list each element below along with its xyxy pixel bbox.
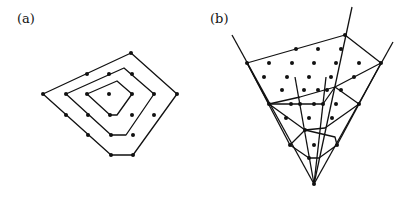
point-dot	[86, 133, 90, 137]
point-dot	[85, 72, 89, 76]
point-dot	[290, 61, 294, 65]
edge-line-0	[232, 35, 314, 184]
point-dot	[130, 72, 134, 76]
panel-b-cone-layers	[232, 7, 393, 186]
point-dot	[280, 88, 284, 92]
point-dot	[312, 61, 316, 65]
point-dot	[357, 61, 361, 65]
edge-line-9	[290, 130, 337, 145]
point-dot	[267, 61, 271, 65]
point-dot	[343, 33, 347, 37]
point-dot	[108, 113, 112, 117]
point-dot	[245, 61, 249, 65]
point-dot	[289, 102, 293, 106]
point-dot	[298, 102, 302, 106]
point-dot	[330, 116, 334, 120]
point-dot	[131, 153, 135, 157]
point-dot	[302, 88, 306, 92]
edge-line-5	[247, 35, 381, 63]
point-dot	[335, 143, 339, 147]
layer-polygon-2	[87, 81, 132, 115]
point-dot	[334, 61, 338, 65]
point-dot	[329, 75, 333, 79]
point-dot	[334, 102, 338, 106]
nested-polygon-diagrams	[0, 0, 412, 197]
point-dot	[85, 92, 89, 96]
layer-polygon-0	[43, 53, 177, 155]
point-dot	[129, 51, 133, 55]
point-dot	[109, 153, 113, 157]
panel-a-nested-convex-layers	[41, 51, 179, 157]
point-dot	[352, 75, 356, 79]
point-dot	[339, 88, 343, 92]
point-dot	[303, 128, 307, 132]
point-dot	[64, 92, 68, 96]
point-dot	[109, 133, 113, 137]
point-dot	[316, 47, 320, 51]
point-dot	[312, 143, 316, 147]
point-dot	[262, 75, 266, 79]
point-dot	[130, 92, 134, 96]
point-dot	[307, 116, 311, 120]
point-dot	[316, 88, 320, 92]
point-dot	[64, 113, 68, 117]
point-dot	[130, 113, 134, 117]
point-dot	[152, 113, 156, 117]
point-dot	[321, 102, 325, 106]
point-dot	[379, 61, 383, 65]
point-dot	[307, 156, 311, 160]
point-dot	[285, 75, 289, 79]
point-dot	[312, 102, 316, 106]
point-dot	[107, 72, 111, 76]
point-dot	[175, 92, 179, 96]
point-dot	[107, 92, 111, 96]
point-dot	[294, 47, 298, 51]
point-dot	[325, 88, 329, 92]
point-dot	[307, 75, 311, 79]
point-dot	[86, 113, 90, 117]
point-dot	[312, 182, 316, 186]
point-dot	[41, 92, 45, 96]
point-dot	[288, 143, 292, 147]
point-dot	[357, 102, 361, 106]
point-dot	[339, 47, 343, 51]
point-dot	[284, 116, 288, 120]
point-dot	[131, 133, 135, 137]
point-dot	[152, 92, 156, 96]
layer-polygon-1	[66, 68, 154, 135]
point-dot	[267, 102, 271, 106]
